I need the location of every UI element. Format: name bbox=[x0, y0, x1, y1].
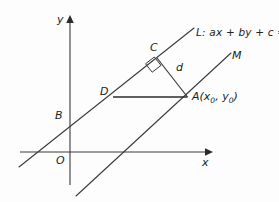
origin-label: O bbox=[56, 155, 65, 166]
geometry-figure: L: ax + by + c = 0 M C d D A(x0, y0) B O… bbox=[0, 0, 279, 202]
segment-d-label: d bbox=[176, 62, 183, 73]
point-A-name: A bbox=[192, 90, 200, 103]
point-D-label: D bbox=[100, 86, 108, 97]
line-L-label: L: ax + by + c = 0 bbox=[196, 27, 279, 38]
line-M bbox=[76, 53, 231, 196]
point-A-x-sub: 0 bbox=[210, 96, 215, 105]
point-C-label: C bbox=[150, 42, 158, 53]
point-B-label: B bbox=[55, 110, 63, 121]
y-axis-label: y bbox=[57, 14, 64, 25]
point-A-label: A(x0, y0) bbox=[192, 91, 238, 102]
y-axis-arrowhead bbox=[66, 15, 74, 23]
line-M-label: M bbox=[232, 50, 242, 61]
x-axis-label: x bbox=[202, 157, 209, 168]
point-A-y: y bbox=[222, 90, 229, 103]
x-axis-arrowhead bbox=[205, 148, 213, 156]
point-A-y-sub: 0 bbox=[229, 96, 234, 105]
